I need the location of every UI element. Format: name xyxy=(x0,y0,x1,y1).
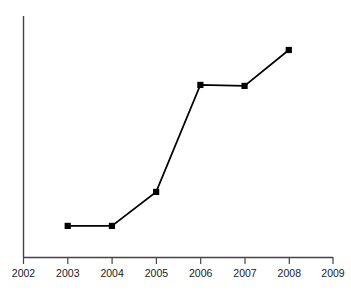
x-tick-label-2008: 2008 xyxy=(278,267,302,279)
x-axis-tick-labels: 2002 2003 2004 2005 2006 2007 2008 2009 xyxy=(12,267,345,279)
chart-figure: 2002 2003 2004 2005 2006 2007 2008 2009 xyxy=(0,0,351,293)
data-point-2007 xyxy=(241,83,247,89)
data-series-line xyxy=(68,50,289,226)
x-tick-label-2007: 2007 xyxy=(233,267,257,279)
data-point-2004 xyxy=(109,223,115,229)
data-point-2006 xyxy=(197,82,203,88)
data-point-2008 xyxy=(286,47,292,53)
line-chart-plot: 2002 2003 2004 2005 2006 2007 2008 2009 xyxy=(0,0,351,293)
x-tick-label-2002: 2002 xyxy=(12,267,36,279)
x-tick-label-2004: 2004 xyxy=(100,267,124,279)
data-point-2003 xyxy=(65,223,71,229)
data-point-2005 xyxy=(153,189,159,195)
x-tick-label-2006: 2006 xyxy=(189,267,213,279)
x-tick-label-2009: 2009 xyxy=(321,267,345,279)
x-tick-label-2003: 2003 xyxy=(56,267,80,279)
x-tick-label-2005: 2005 xyxy=(145,267,169,279)
